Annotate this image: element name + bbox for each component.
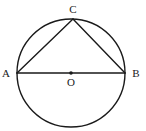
segment-a-to-c [17,19,73,73]
vertex-label-b: B [132,67,139,79]
vertex-label-o: O [67,76,75,88]
vertex-label-c: C [69,3,76,15]
center-point-dot [69,71,73,75]
vertex-label-a: A [2,67,10,79]
geometry-canvas: A B C O [0,0,146,131]
geometry-figure: A B C O [0,0,146,131]
